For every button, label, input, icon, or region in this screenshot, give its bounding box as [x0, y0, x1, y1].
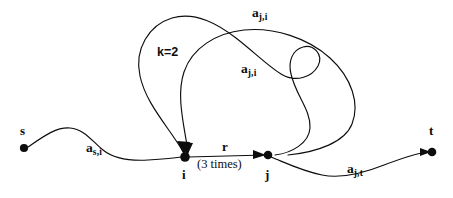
- diagram-canvas: s i j t as,i aj,i aj,i aj,t k=2 r (3 tim…: [0, 0, 453, 198]
- edge-j-to-i-outer-loop: [139, 16, 320, 155]
- node-label-s: s: [20, 124, 25, 137]
- edge-label-j-i-inner-sub: j,i: [248, 68, 257, 78]
- edge-label-j-t-base: a: [347, 161, 354, 176]
- edge-label-s-i: as,i: [86, 141, 102, 155]
- multiplicity-annotation: k=2: [157, 46, 178, 59]
- edge-j-to-i-inner-loop: [181, 30, 355, 155]
- node-dot-j[interactable]: [264, 151, 273, 160]
- edge-label-j-t-sub: j,t: [354, 168, 363, 178]
- edge-label-j-i-outer-base: a: [252, 5, 259, 20]
- edge-label-j-i-outer-sub: j,i: [259, 12, 268, 22]
- node-dot-i[interactable]: [180, 152, 190, 162]
- edge-s-to-i: [28, 128, 181, 160]
- center-edge-repeat-label: (3 times): [197, 158, 242, 171]
- node-label-i: i: [182, 168, 186, 181]
- center-edge-label: r: [222, 140, 228, 153]
- edge-label-j-i-outer: aj,i: [252, 6, 268, 20]
- node-label-t: t: [429, 124, 433, 137]
- edge-label-s-i-sub: s,i: [93, 147, 102, 157]
- edge-label-j-t: aj,t: [347, 162, 363, 176]
- node-dot-s[interactable]: [20, 144, 28, 152]
- node-dot-t[interactable]: [428, 148, 437, 157]
- edge-label-j-i-inner-base: a: [241, 61, 248, 76]
- edge-label-j-i-inner: aj,i: [241, 62, 257, 76]
- node-label-j: j: [265, 168, 269, 181]
- edge-label-s-i-base: a: [86, 140, 93, 155]
